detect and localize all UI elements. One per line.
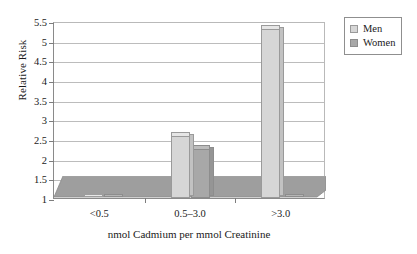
- y-axis-tick-label: 2: [42, 155, 47, 166]
- legend-item-men[interactable]: Men: [350, 22, 395, 36]
- bar-women-2: [285, 194, 304, 197]
- y-axis-title: Relative Risk: [16, 5, 32, 135]
- x-axis-tick: [235, 198, 236, 203]
- y-axis-tick-label: 1.5: [34, 175, 47, 186]
- bar-men-0: [84, 194, 103, 197]
- x-axis-tick: [145, 198, 146, 203]
- bar-women-0: [104, 194, 123, 197]
- bar-series-group: [54, 23, 324, 198]
- legend-label-men: Men: [363, 24, 382, 35]
- bar-men-2: [261, 29, 280, 198]
- bar-men-1: [171, 136, 190, 198]
- x-axis-category-label: >3.0: [271, 208, 290, 219]
- y-axis-tick-label: 3.5: [34, 96, 47, 107]
- y-axis-tick-label: 5: [42, 37, 47, 48]
- legend: Men Women: [344, 17, 402, 55]
- x-axis-category-label: 0.5–3.0: [174, 208, 206, 219]
- legend-swatch-men-icon: [350, 25, 358, 33]
- x-axis-title: nmol Cadmium per mmol Creatinine: [53, 228, 325, 240]
- x-axis-category-label: <0.5: [90, 208, 109, 219]
- y-axis-tick-label: 4: [42, 77, 47, 88]
- plot-area: 11.522.533.544.555.5 <0.50.5–3.0>3.0: [53, 22, 325, 199]
- relative-risk-bar-chart: Relative Risk 11.522.533.544.555.5 <0.50…: [0, 0, 417, 254]
- legend-item-women[interactable]: Women: [350, 36, 395, 50]
- y-axis-tick: [49, 200, 54, 201]
- y-axis-tick-label: 5.5: [34, 18, 47, 29]
- y-axis-tick-label: 4.5: [34, 57, 47, 68]
- legend-swatch-women-icon: [350, 39, 358, 47]
- legend-label-women: Women: [363, 38, 395, 49]
- y-axis-tick-label: 1: [42, 195, 47, 206]
- y-axis-tick-label: 3: [42, 116, 47, 127]
- y-axis-tick-label: 2.5: [34, 136, 47, 147]
